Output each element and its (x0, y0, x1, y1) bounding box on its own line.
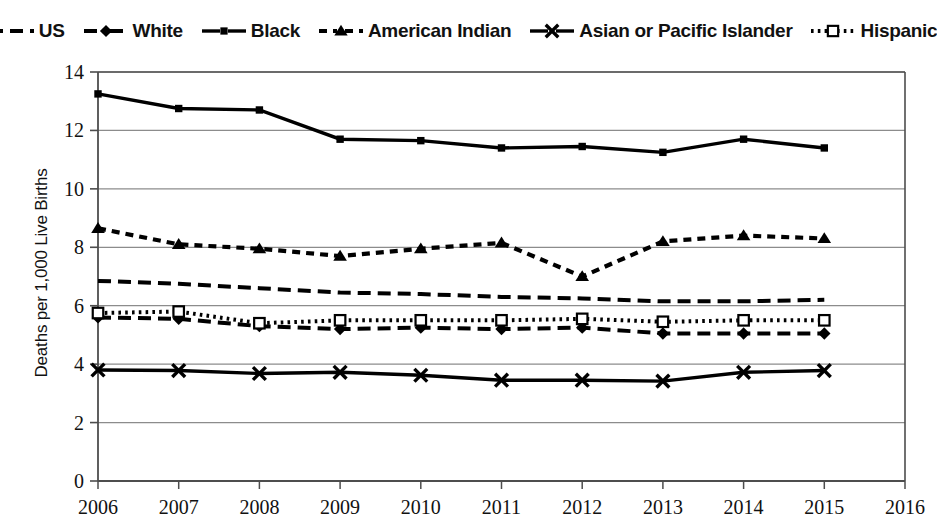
y-tick-label: 4 (74, 353, 84, 375)
y-tick-label: 6 (74, 295, 84, 317)
legend-item-hispanic[interactable]: Hispanic (810, 20, 937, 42)
legend-swatch-x-icon (529, 22, 575, 40)
square-marker (659, 149, 666, 156)
square-marker (256, 106, 263, 113)
legend-item-label: American Indian (368, 20, 511, 42)
y-tick-label: 14 (64, 61, 84, 83)
legend-swatch-open-square-icon (810, 22, 856, 40)
legend-item-label: Hispanic (860, 20, 937, 42)
y-tick-label: 10 (64, 178, 84, 200)
series-asian-or-pacific-islander (92, 364, 831, 388)
series-black (94, 90, 828, 156)
legend-swatch-diamond-icon (83, 22, 129, 40)
legend-item-american-indian[interactable]: American Indian (318, 20, 511, 42)
square-marker (740, 135, 747, 142)
triangle-marker (656, 235, 670, 246)
x-tick-label: 2014 (724, 496, 764, 518)
legend-item-label: US (39, 20, 65, 42)
open-square-marker (496, 315, 507, 326)
x-tick-label: 2016 (885, 496, 925, 518)
legend-item-label: Asian or Pacific Islander (579, 20, 792, 42)
diamond-marker (657, 327, 669, 339)
square-marker (175, 105, 182, 112)
open-square-marker (416, 315, 427, 326)
legend-item-white[interactable]: White (83, 20, 183, 42)
open-square-marker (254, 318, 265, 329)
square-marker (821, 144, 828, 151)
y-tick-label: 0 (74, 470, 84, 492)
y-tick-label: 8 (74, 236, 84, 258)
chart-legend: USWhiteBlackAmerican IndianAsian or Paci… (0, 14, 926, 48)
plot-area: Deaths per 1,000 Live Births 02468101214… (0, 48, 926, 524)
x-tick-label: 2009 (320, 496, 360, 518)
open-square-marker (577, 314, 588, 325)
square-marker (336, 135, 343, 142)
diamond-marker (99, 25, 111, 37)
x-tick-label: 2012 (562, 496, 602, 518)
series-hispanic (93, 306, 830, 328)
y-tick-label: 12 (64, 119, 84, 141)
x-tick-label: 2006 (78, 496, 118, 518)
open-square-marker (173, 306, 184, 317)
triangle-marker (575, 270, 589, 281)
x-tick-label: 2015 (804, 496, 844, 518)
square-marker (220, 27, 227, 34)
series-line (98, 281, 824, 301)
y-tick-label: 2 (74, 412, 84, 434)
legend-swatch-square-icon (201, 22, 247, 40)
open-square-marker (738, 315, 749, 326)
line-chart-svg: 0246810121420062007200820092010201120122… (0, 48, 926, 524)
x-tick-label: 2008 (239, 496, 279, 518)
open-square-marker (335, 315, 346, 326)
series-us (98, 281, 824, 301)
series-line (98, 94, 824, 152)
triangle-marker (737, 229, 751, 240)
square-marker (94, 90, 101, 97)
series-line (98, 228, 824, 276)
square-marker (579, 143, 586, 150)
legend-item-label: Black (251, 20, 300, 42)
x-tick-label: 2007 (159, 496, 199, 518)
square-marker (417, 137, 424, 144)
triangle-marker (817, 232, 831, 243)
diamond-marker (818, 327, 830, 339)
square-marker (498, 144, 505, 151)
legend-item-black[interactable]: Black (201, 20, 300, 42)
x-tick-label: 2013 (643, 496, 683, 518)
series-american-indian (91, 222, 831, 281)
diamond-marker (737, 327, 749, 339)
open-square-marker (93, 308, 104, 319)
x-tick-label: 2011 (482, 496, 521, 518)
triangle-marker (495, 237, 509, 248)
legend-item-us[interactable]: US (0, 20, 65, 42)
series-white (92, 311, 831, 339)
open-square-marker (819, 315, 830, 326)
open-square-marker (658, 317, 669, 328)
legend-swatch-none-icon (0, 22, 35, 40)
legend-swatch-triangle-icon (318, 22, 364, 40)
series-line (98, 317, 824, 333)
open-square-marker (828, 26, 838, 36)
legend-item-label: White (133, 20, 183, 42)
legend-item-asian-or-pacific-islander[interactable]: Asian or Pacific Islander (529, 20, 792, 42)
series-line (98, 370, 824, 381)
x-tick-label: 2010 (401, 496, 441, 518)
